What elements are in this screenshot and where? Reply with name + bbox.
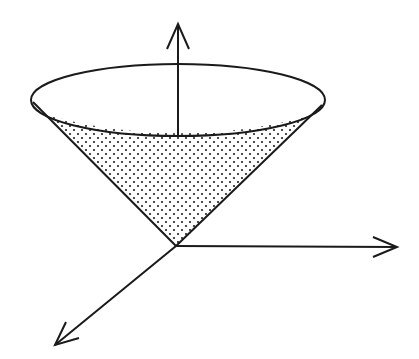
z-axis-arrow (167, 24, 189, 135)
diagram-canvas (0, 0, 419, 359)
x-axis-arrow (176, 237, 397, 257)
cone-diagram (0, 0, 419, 359)
y-axis-arrow (55, 246, 176, 345)
